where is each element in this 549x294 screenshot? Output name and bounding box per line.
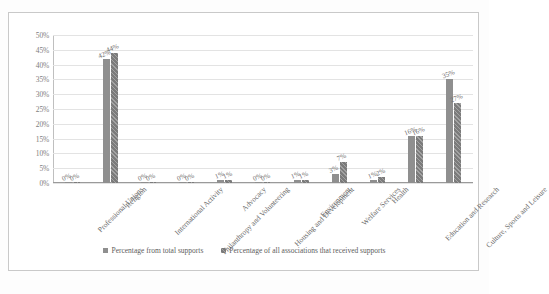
bar-group: 1%1% <box>282 35 320 183</box>
y-axis-tick-label: 10% <box>15 149 49 158</box>
legend-item-series-2[interactable]: Percentage of all associations that rece… <box>221 246 385 255</box>
plot-area: 0%0%42%44%0%0%0%0%1%1%0%0%1%1%3%7%1%2%16… <box>53 35 473 183</box>
x-axis-category-labels: Professional UnionsReligionInternational… <box>53 185 473 243</box>
bar[interactable]: 0% <box>73 182 80 183</box>
bar-group: 3%7% <box>320 35 358 183</box>
bar-group: 0%0% <box>168 35 206 183</box>
bar-value-label: 1% <box>298 170 310 181</box>
legend-item-series-1[interactable]: Percentage from total supports <box>103 246 203 255</box>
bar[interactable]: 1% <box>217 180 224 183</box>
bar-group: 0%0% <box>244 35 282 183</box>
legend-label-series-1: Percentage from total supports <box>111 246 203 255</box>
bar-group: 0%0% <box>53 35 91 183</box>
chart-legend: Percentage from total supports Percentag… <box>0 246 489 255</box>
y-axis-tick-label: 30% <box>15 90 49 99</box>
bar[interactable]: 0% <box>187 182 194 183</box>
bar-group: 35%27% <box>435 35 473 183</box>
bar-value-label: 0% <box>69 172 81 183</box>
y-axis-tick-label: 15% <box>15 134 49 143</box>
bar[interactable]: 16% <box>416 136 423 183</box>
gridline <box>53 183 473 184</box>
y-axis-tick-label: 20% <box>15 119 49 128</box>
bar[interactable]: 0% <box>179 182 186 183</box>
bar-group: 1%1% <box>206 35 244 183</box>
bar[interactable]: 0% <box>149 182 156 183</box>
bar-value-label: 1% <box>221 170 233 181</box>
bar-value-label: 44% <box>105 42 120 54</box>
bar-group: 1%2% <box>358 35 396 183</box>
bar-value-label: 0% <box>260 172 272 183</box>
bar-group: 16%16% <box>397 35 435 183</box>
bar[interactable]: 7% <box>340 162 347 183</box>
y-axis-tick-label: 45% <box>15 45 49 54</box>
bar[interactable]: 1% <box>370 180 377 183</box>
y-axis-tick-labels: 0%5%10%15%20%25%30%35%40%45%50% <box>11 35 49 183</box>
y-axis-tick-label: 50% <box>15 31 49 40</box>
y-axis-tick-label: 35% <box>15 75 49 84</box>
y-axis-tick-label: 0% <box>15 179 49 188</box>
bar-value-label: 3% <box>328 164 340 175</box>
bar-value-label: 7% <box>336 152 348 163</box>
bar[interactable]: 2% <box>378 177 385 183</box>
bar[interactable]: 3% <box>332 174 339 183</box>
bar-value-label: 35% <box>441 69 456 81</box>
chart-frame: 0%5%10%15%20%25%30%35%40%45%50% 0%0%42%4… <box>8 12 479 271</box>
bar[interactable]: 16% <box>408 136 415 183</box>
legend-swatch-series-1 <box>103 248 108 253</box>
x-axis-category-label: Environment <box>319 185 353 219</box>
y-axis-tick-label: 5% <box>15 164 49 173</box>
y-axis-tick-label: 40% <box>15 60 49 69</box>
bar[interactable]: 1% <box>302 180 309 183</box>
bar-group: 42%44% <box>91 35 129 183</box>
bar[interactable]: 27% <box>454 103 461 183</box>
bar[interactable]: 0% <box>263 182 270 183</box>
bar-group: 0%0% <box>129 35 167 183</box>
bar[interactable]: 44% <box>111 53 118 183</box>
bar[interactable]: 1% <box>225 180 232 183</box>
x-axis-category-label: International Activity <box>173 185 225 237</box>
legend-label-series-2: Percentage of all associations that rece… <box>229 246 385 255</box>
y-axis-tick-label: 25% <box>15 105 49 114</box>
bar-value-label: 0% <box>145 172 157 183</box>
legend-swatch-series-2 <box>221 248 226 253</box>
bar[interactable]: 42% <box>103 59 110 183</box>
